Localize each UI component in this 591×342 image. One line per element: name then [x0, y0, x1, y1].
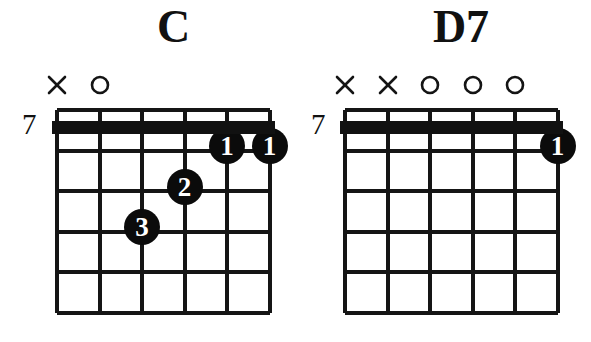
- fret-line: [345, 270, 558, 274]
- muted-string-marker: [46, 74, 68, 96]
- fret-line: [57, 108, 270, 112]
- string-line: [183, 110, 187, 313]
- fret-line: [57, 270, 270, 274]
- fret-position-number: 7: [311, 110, 326, 139]
- finger-dot: 3: [124, 209, 160, 245]
- fret-line: [345, 311, 558, 315]
- string-markers: [345, 74, 558, 100]
- muted-string-marker: [334, 74, 356, 96]
- fret-position-number: 7: [22, 110, 37, 139]
- string-markers: [57, 74, 270, 100]
- string-line: [471, 110, 475, 313]
- chord-title: C: [0, 4, 321, 50]
- string-line: [98, 110, 102, 313]
- finger-dot: 2: [167, 169, 203, 205]
- muted-string-marker: [377, 74, 399, 96]
- string-line: [513, 110, 517, 313]
- chord-chart-sheet: C 7 1123 D7 7 1: [0, 0, 591, 342]
- string-line: [343, 110, 347, 313]
- fret-line: [345, 189, 558, 193]
- barre-nut-bar: [340, 121, 563, 134]
- chord-diagram-d7: D7 7 1: [295, 0, 591, 342]
- fret-line: [57, 311, 270, 315]
- fret-line: [345, 149, 558, 153]
- fret-line: [345, 230, 558, 234]
- fret-line: [57, 189, 270, 193]
- string-line: [386, 110, 390, 313]
- chord-title: D7: [295, 4, 591, 50]
- open-string-marker: [504, 74, 526, 96]
- string-line: [55, 110, 59, 313]
- fret-line: [57, 230, 270, 234]
- chord-diagram-c: C 7 1123: [0, 0, 295, 342]
- barre-nut-bar: [52, 121, 275, 134]
- fret-line: [345, 108, 558, 112]
- open-string-marker: [89, 74, 111, 96]
- open-string-marker: [419, 74, 441, 96]
- string-line: [428, 110, 432, 313]
- open-string-marker: [462, 74, 484, 96]
- fretboard-grid: [345, 110, 558, 313]
